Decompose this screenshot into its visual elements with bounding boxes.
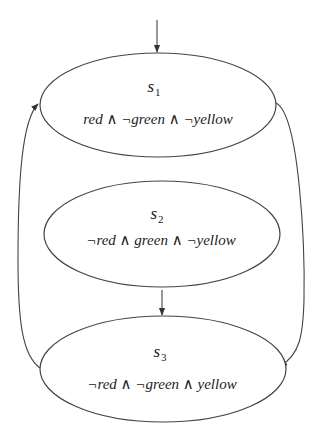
state-s1: s1 red ∧ ¬green ∧ ¬yellow xyxy=(40,53,276,157)
state-s1-ellipse xyxy=(40,53,276,157)
state-s2: s2 ¬red ∧ green ∧ ¬yellow xyxy=(44,181,280,287)
state-s3-label: ¬red ∧ ¬green ∧ yellow xyxy=(87,376,236,392)
transition-s3-to-s1 xyxy=(18,104,40,368)
state-s1-label: red ∧ ¬green ∧ ¬yellow xyxy=(83,111,232,127)
state-s2-label: ¬red ∧ green ∧ ¬yellow xyxy=(86,232,235,248)
state-s3-ellipse xyxy=(40,316,286,422)
state-diagram: s1 red ∧ ¬green ∧ ¬yellow s2 ¬red ∧ gree… xyxy=(0,0,319,431)
state-s3: s3 ¬red ∧ ¬green ∧ yellow xyxy=(40,316,286,422)
